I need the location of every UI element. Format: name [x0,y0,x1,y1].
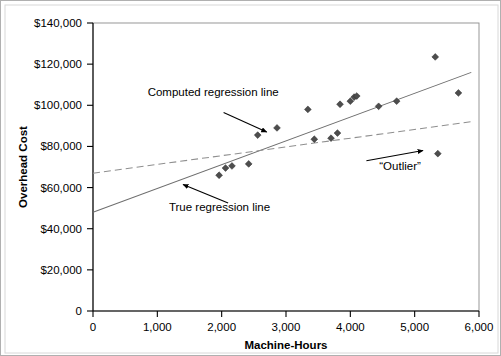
y-tick-label-40000: $40,000 [40,223,82,235]
x-tick-label-2000: 2,000 [207,321,236,333]
chart-figure: 0 $20,000 $40,000 $60,000 $80,000 $100,0… [0,0,501,356]
x-tick-label-4000: 4,000 [336,321,365,333]
x-tick-label-6000: 6,000 [465,321,494,333]
y-tick-label-120000: $120,000 [34,58,82,70]
true-regression-annotation-label: True regression line [169,201,270,213]
x-tick-label-1000: 1,000 [143,321,172,333]
y-tick-label-80000: $80,000 [40,140,82,152]
y-tick-label-20000: $20,000 [40,264,82,276]
y-tick-label-140000: $140,000 [34,17,82,29]
y-axis-title: Overhead Cost [17,126,29,208]
y-tick-label-0: 0 [76,305,82,317]
x-tick-label-0: 0 [90,321,96,333]
x-tick-label-5000: 5,000 [400,321,429,333]
y-tick-label-60000: $60,000 [40,182,82,194]
x-axis-title: Machine-Hours [244,339,327,351]
computed-regression-annotation-label: Computed regression line [148,86,279,98]
outlier-annotation-label: “Outlier” [379,160,421,172]
x-tick-label-3000: 3,000 [272,321,301,333]
y-tick-label-100000: $100,000 [34,99,82,111]
scatter-plot: 0 $20,000 $40,000 $60,000 $80,000 $100,0… [1,1,501,356]
